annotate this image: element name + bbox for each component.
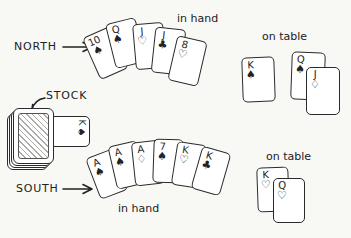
stock-pile-top-card <box>13 108 54 164</box>
card-q-heart: Q♡ <box>273 178 305 223</box>
card-corner-index: K♡ <box>260 170 271 190</box>
heart-suit-icon: ♡ <box>277 190 287 201</box>
stock-pile-icon <box>13 108 54 164</box>
stock-upcard-rank: K <box>77 120 86 126</box>
heart-suit-icon: ♡ <box>261 179 271 190</box>
card-corner-index: Q♡ <box>277 181 287 201</box>
stock-upcard-corner: K ♠ <box>77 118 86 137</box>
stock-upcard: K ♠ <box>50 116 90 147</box>
card-game-diagram: NORTH in hand 10♠Q♠J♡J♣8♡ on table K♠ Q♠… <box>0 0 351 238</box>
stock-upcard-suit-icon: ♠ <box>77 128 87 137</box>
card-back-hatch-pattern <box>18 113 49 159</box>
